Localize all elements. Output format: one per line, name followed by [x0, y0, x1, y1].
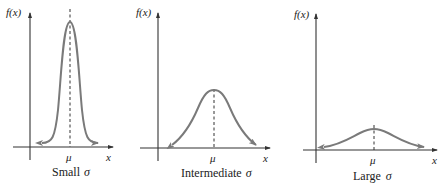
caption: Intermediateσ [181, 166, 253, 180]
x-axis-label: x [105, 151, 111, 163]
x-axis-label: x [262, 152, 268, 164]
panel-large-sigma: f(x) μ x Largeσ [294, 8, 437, 183]
mu-label: μ [65, 151, 72, 163]
caption: Smallσ [52, 165, 91, 179]
normal-curves-diagram: f(x) μ x Smallσ f(x) μ x Intermediateσ f… [0, 0, 441, 191]
x-axis-label: x [431, 154, 437, 166]
mu-label: μ [209, 152, 216, 164]
y-axis-label: f(x) [6, 6, 22, 19]
mu-label: μ [369, 154, 376, 166]
y-axis-label: f(x) [294, 8, 310, 21]
caption: Largeσ [353, 169, 393, 183]
panel-intermediate-sigma: f(x) μ x Intermediateσ [136, 6, 270, 180]
panel-small-sigma: f(x) μ x Smallσ [6, 6, 113, 179]
y-axis-label: f(x) [136, 6, 152, 19]
